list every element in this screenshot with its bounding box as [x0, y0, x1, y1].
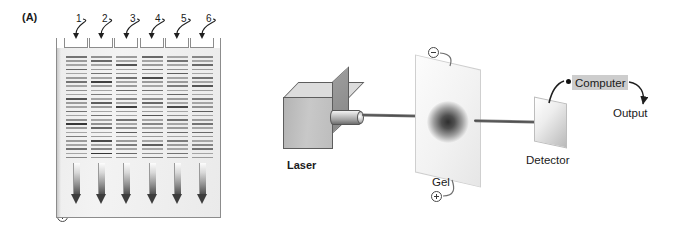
- band: [167, 69, 188, 71]
- band: [66, 157, 87, 159]
- band: [142, 136, 163, 138]
- band: [91, 90, 112, 92]
- band: [142, 115, 163, 117]
- band: [66, 123, 87, 125]
- band: [167, 98, 188, 100]
- band: [142, 106, 163, 108]
- band: [116, 81, 137, 83]
- band: [142, 73, 163, 75]
- band: [192, 94, 213, 96]
- band: [66, 136, 87, 138]
- laser-box-front-face: [283, 97, 333, 149]
- band: [167, 153, 188, 155]
- band: [91, 140, 112, 142]
- band: [192, 144, 213, 146]
- band: [116, 144, 137, 146]
- band: [116, 90, 137, 92]
- band: [66, 153, 87, 155]
- band: [167, 56, 188, 58]
- band: [116, 123, 137, 125]
- panel-tag: (A): [22, 12, 37, 23]
- band: [116, 98, 137, 100]
- band: [167, 77, 188, 79]
- well-2: [89, 38, 113, 48]
- band: [66, 94, 87, 96]
- detector-plate: [534, 96, 567, 148]
- band: [167, 132, 188, 134]
- band: [142, 64, 163, 66]
- arrow-shaft: [98, 163, 105, 195]
- band: [66, 85, 87, 87]
- band: [91, 111, 112, 113]
- band: [142, 127, 163, 129]
- band: [192, 90, 213, 92]
- band: [192, 73, 213, 75]
- band: [192, 98, 213, 100]
- well-1: [64, 38, 88, 48]
- band: [192, 153, 213, 155]
- arrow-head: [147, 194, 157, 204]
- band: [116, 153, 137, 155]
- band: [91, 123, 112, 125]
- lane-number-6: 6: [206, 14, 212, 24]
- band: [116, 148, 137, 150]
- output-label: Output: [613, 108, 648, 120]
- band: [91, 136, 112, 138]
- band: [167, 119, 188, 121]
- band: [167, 106, 188, 108]
- band: [167, 127, 188, 129]
- band: [116, 102, 137, 104]
- band: [192, 69, 213, 71]
- band: [167, 73, 188, 75]
- band: [192, 123, 213, 125]
- band: [142, 132, 163, 134]
- band: [91, 127, 112, 129]
- band: [116, 73, 137, 75]
- band: [167, 136, 188, 138]
- band: [142, 85, 163, 87]
- band: [116, 132, 137, 134]
- band: [116, 94, 137, 96]
- band: [142, 157, 163, 159]
- band: [116, 157, 137, 159]
- band: [167, 157, 188, 159]
- band: [66, 73, 87, 75]
- gel-fluorescence-spot: [427, 101, 469, 143]
- arrow-shaft: [199, 163, 206, 195]
- band: [66, 77, 87, 79]
- band: [192, 81, 213, 83]
- band: [142, 123, 163, 125]
- band: [91, 69, 112, 71]
- well-5: [165, 38, 189, 48]
- band: [66, 106, 87, 108]
- band: [167, 81, 188, 83]
- band: [116, 127, 137, 129]
- lane-3: [116, 56, 137, 161]
- band: [192, 77, 213, 79]
- arrow-head: [96, 194, 106, 204]
- arrow-shaft: [174, 163, 181, 195]
- gel-slab: [56, 38, 221, 218]
- lane-number-2: 2: [102, 14, 108, 24]
- band: [116, 64, 137, 66]
- band: [167, 111, 188, 113]
- band: [91, 148, 112, 150]
- band: [91, 153, 112, 155]
- arrow-head: [71, 194, 81, 204]
- band: [91, 85, 112, 87]
- band: [142, 77, 163, 79]
- apparatus-positive-electrode-icon: [431, 191, 442, 202]
- band: [142, 94, 163, 96]
- band: [142, 56, 163, 58]
- band: [91, 144, 112, 146]
- band: [66, 90, 87, 92]
- band: [66, 115, 87, 117]
- band: [167, 64, 188, 66]
- band: [142, 98, 163, 100]
- band: [116, 140, 137, 142]
- band: [192, 115, 213, 117]
- lane-number-1: 1: [76, 14, 82, 24]
- band: [116, 136, 137, 138]
- band: [91, 81, 112, 83]
- band: [142, 119, 163, 121]
